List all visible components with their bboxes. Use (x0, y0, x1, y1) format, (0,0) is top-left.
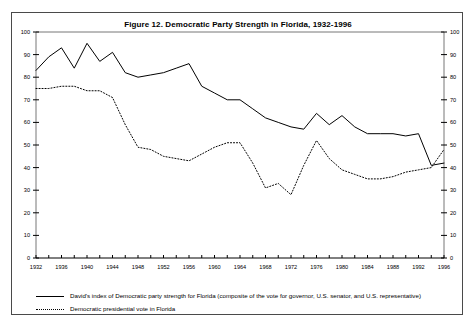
y-tick-label-left: 90 (24, 52, 30, 58)
x-tick-label: 1964 (234, 264, 246, 270)
y-tick-label-right: 30 (450, 187, 456, 193)
chart-plot-area: 0010102020303040405050606070708080909010… (12, 13, 464, 278)
x-tick-label: 1952 (157, 264, 169, 270)
y-tick-label-right: 40 (450, 165, 456, 171)
y-tick-label-right: 80 (450, 74, 456, 80)
y-tick-label-left: 80 (24, 74, 30, 80)
x-tick-label: 1932 (30, 264, 42, 270)
legend-item-presidential-vote: Democratic presidential vote in Florida (36, 302, 456, 315)
x-tick-label: 1968 (259, 264, 271, 270)
chart-axes: 0010102020303040405050606070708080909010… (21, 29, 460, 270)
series-line-0 (36, 43, 444, 165)
x-tick-label: 1996 (438, 264, 450, 270)
dotted-line-icon (36, 304, 64, 314)
legend-item-party-strength: David's index of Democratic party streng… (36, 289, 456, 302)
x-tick-label: 1976 (310, 264, 322, 270)
solid-line-icon (36, 291, 64, 301)
y-tick-label-left: 40 (24, 165, 30, 171)
y-tick-label-right: 70 (450, 97, 456, 103)
y-tick-label-left: 10 (24, 232, 30, 238)
y-tick-label-left: 100 (21, 29, 30, 35)
y-tick-label-left: 20 (24, 210, 30, 216)
x-tick-label: 1988 (387, 264, 399, 270)
x-tick-label: 1944 (106, 264, 118, 270)
y-tick-label-right: 100 (450, 29, 459, 35)
x-tick-label: 1980 (336, 264, 348, 270)
y-tick-label-left: 60 (24, 119, 30, 125)
y-tick-label-right: 10 (450, 232, 456, 238)
y-tick-label-right: 60 (450, 119, 456, 125)
x-tick-label: 1940 (81, 264, 93, 270)
x-tick-label: 1984 (361, 264, 373, 270)
chart-series-group (36, 43, 444, 194)
y-tick-label-right: 20 (450, 210, 456, 216)
x-tick-label: 1960 (208, 264, 220, 270)
series-line-1 (36, 86, 444, 194)
x-tick-label: 1972 (285, 264, 297, 270)
legend-label-party-strength: David's index of Democratic party streng… (70, 292, 421, 300)
y-tick-label-right: 90 (450, 52, 456, 58)
y-tick-label-left: 0 (27, 255, 30, 261)
figure-container: Figure 12. Democratic Party Strength in … (11, 12, 463, 315)
x-tick-label: 1992 (412, 264, 424, 270)
y-tick-label-right: 50 (450, 142, 456, 148)
x-tick-label: 1948 (132, 264, 144, 270)
y-tick-label-left: 30 (24, 187, 30, 193)
y-tick-label-left: 50 (24, 142, 30, 148)
y-tick-label-right: 0 (450, 255, 453, 261)
legend-label-presidential-vote: Democratic presidential vote in Florida (70, 305, 175, 313)
x-tick-label: 1936 (55, 264, 67, 270)
x-tick-label: 1956 (183, 264, 195, 270)
chart-legend: David's index of Democratic party streng… (36, 289, 456, 315)
y-tick-label-left: 70 (24, 97, 30, 103)
